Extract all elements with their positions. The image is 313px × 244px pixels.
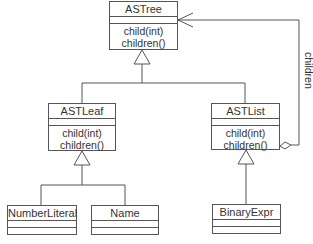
class-astree: ASTree child(int) children()	[109, 1, 178, 50]
methods-section: child(int) children()	[49, 126, 115, 151]
attributes-section	[8, 221, 76, 228]
association-label: children	[303, 52, 313, 89]
class-astleaf: ASTLeaf child(int) children()	[48, 103, 116, 151]
attributes-section	[213, 220, 280, 227]
methods-section	[92, 228, 158, 234]
attributes-section	[212, 119, 279, 126]
class-name-box: Name	[91, 205, 159, 235]
class-name: ASTLeaf	[49, 104, 115, 119]
methods-section	[8, 228, 76, 234]
class-numberliteral: NumberLiteral	[7, 205, 77, 235]
aggregation-diamond	[280, 142, 291, 149]
class-astlist: ASTList child(int) children()	[211, 103, 280, 150]
class-name: NumberLiteral	[8, 206, 76, 221]
class-name: ASTList	[212, 104, 279, 119]
methods-section	[213, 227, 280, 233]
attributes-section	[110, 17, 177, 24]
generalization-arrow-astleaf	[74, 151, 90, 165]
class-name: ASTree	[110, 2, 177, 17]
class-name: BinaryExpr	[213, 205, 280, 220]
methods-section: child(int) children()	[110, 24, 177, 49]
attributes-section	[92, 221, 158, 228]
generalization-arrow-astree	[134, 50, 150, 64]
methods-section: child(int) children()	[212, 126, 279, 151]
generalization-arrow-astlist	[238, 150, 254, 164]
class-binaryexpr: BinaryExpr	[212, 204, 281, 234]
attributes-section	[49, 119, 115, 126]
class-name: Name	[92, 206, 158, 221]
